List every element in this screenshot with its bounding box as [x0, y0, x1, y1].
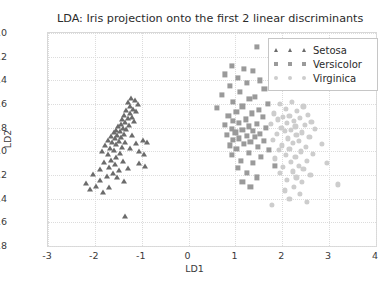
- data-point-versicolor: [248, 139, 253, 144]
- data-point-versicolor: [233, 130, 238, 135]
- legend-label: Virginica: [313, 73, 356, 84]
- data-point-virginica: [301, 104, 306, 109]
- data-point-versicolor: [223, 72, 228, 77]
- data-point-setosa: [127, 145, 133, 150]
- data-point-versicolor: [266, 101, 271, 106]
- data-point-setosa: [87, 187, 93, 192]
- legend-item-setosa[interactable]: Setosa: [274, 43, 372, 57]
- data-point-virginica: [293, 155, 298, 160]
- data-point-versicolor: [247, 97, 252, 102]
- data-point-versicolor: [257, 78, 262, 83]
- gridline-horizontal: [48, 175, 376, 176]
- data-point-virginica: [280, 143, 285, 148]
- gridline-horizontal: [48, 246, 376, 247]
- data-point-virginica: [296, 138, 301, 143]
- data-point-virginica: [281, 164, 286, 169]
- gridline-vertical: [95, 33, 96, 246]
- data-point-versicolor: [267, 148, 272, 153]
- data-point-versicolor: [235, 75, 240, 80]
- x-tick-label: 0: [173, 250, 203, 261]
- legend-item-versicolor[interactable]: Versicolor: [274, 57, 372, 71]
- x-tick-label: -1: [126, 250, 156, 261]
- data-point-versicolor: [245, 80, 250, 85]
- data-point-setosa: [131, 118, 137, 123]
- data-point-virginica: [288, 127, 293, 132]
- data-point-versicolor: [254, 45, 259, 50]
- data-point-versicolor: [230, 99, 235, 104]
- data-point-virginica: [290, 169, 295, 174]
- data-point-setosa: [129, 132, 135, 137]
- data-point-virginica: [305, 112, 310, 117]
- data-point-versicolor: [223, 123, 228, 128]
- data-point-virginica: [288, 159, 293, 164]
- data-point-versicolor: [240, 180, 245, 185]
- circle-marker-icon: [274, 76, 306, 80]
- gridline-horizontal: [48, 33, 376, 34]
- data-point-versicolor: [238, 158, 243, 163]
- data-point-versicolor: [259, 155, 264, 160]
- data-point-virginica: [270, 137, 275, 142]
- chart-title: LDA: Iris projection onto the first 2 li…: [57, 12, 383, 25]
- chart-legend: SetosaVersicolorVirginica: [268, 38, 378, 91]
- data-point-setosa: [144, 139, 150, 144]
- x-axis-label: LD1: [0, 263, 389, 274]
- data-point-virginica: [274, 131, 279, 136]
- data-point-virginica: [304, 200, 309, 205]
- data-point-versicolor: [241, 66, 246, 71]
- legend-item-virginica[interactable]: Virginica: [274, 71, 372, 85]
- data-point-virginica: [312, 126, 317, 131]
- data-point-versicolor: [238, 90, 243, 95]
- data-point-virginica: [273, 156, 278, 161]
- data-point-versicolor: [254, 175, 259, 180]
- data-point-virginica: [284, 177, 289, 182]
- data-point-versicolor: [261, 138, 266, 143]
- data-point-versicolor: [262, 86, 267, 91]
- y-tick-label: -2.2: [0, 169, 7, 180]
- data-point-virginica: [282, 129, 287, 134]
- data-point-setosa: [93, 183, 99, 188]
- data-point-setosa: [113, 155, 119, 160]
- x-tick-label: -3: [32, 250, 62, 261]
- data-point-versicolor: [224, 132, 229, 137]
- y-tick-label: -2.6: [0, 216, 7, 227]
- data-point-virginica: [295, 109, 300, 114]
- data-point-versicolor: [230, 118, 235, 123]
- data-point-setosa: [97, 177, 103, 182]
- data-point-setosa: [133, 141, 139, 146]
- data-point-virginica: [299, 180, 304, 185]
- data-point-virginica: [281, 114, 286, 119]
- gridline-vertical: [189, 33, 190, 246]
- data-point-versicolor: [263, 125, 268, 130]
- data-point-versicolor: [227, 84, 232, 89]
- gridline-horizontal: [48, 199, 376, 200]
- data-point-versicolor: [240, 127, 245, 132]
- data-point-virginica: [299, 130, 304, 135]
- data-point-virginica: [275, 117, 280, 122]
- x-tick-label: -2: [79, 250, 109, 261]
- data-point-versicolor: [273, 163, 278, 168]
- data-point-setosa: [142, 163, 148, 168]
- gridline-horizontal: [48, 104, 376, 105]
- data-point-virginica: [297, 116, 302, 121]
- data-point-setosa: [116, 168, 122, 173]
- data-point-versicolor: [227, 143, 232, 148]
- data-point-versicolor: [214, 105, 219, 110]
- data-point-virginica: [301, 166, 306, 171]
- data-point-setosa: [125, 165, 131, 170]
- data-point-virginica: [283, 152, 288, 157]
- data-point-versicolor: [230, 137, 235, 142]
- data-point-versicolor: [220, 92, 225, 97]
- y-tick-label: -2.8: [0, 240, 7, 251]
- gridline-vertical: [48, 33, 49, 246]
- gridline-horizontal: [48, 222, 376, 223]
- data-point-versicolor: [243, 117, 248, 122]
- data-point-versicolor: [234, 146, 239, 151]
- y-tick-label: -1.4: [0, 74, 7, 85]
- data-point-virginica: [307, 135, 312, 140]
- data-point-virginica: [268, 122, 273, 127]
- data-point-versicolor: [254, 122, 259, 127]
- data-point-virginica: [271, 111, 276, 116]
- data-point-virginica: [297, 191, 302, 196]
- data-point-setosa: [106, 164, 112, 169]
- data-point-versicolor: [229, 152, 234, 157]
